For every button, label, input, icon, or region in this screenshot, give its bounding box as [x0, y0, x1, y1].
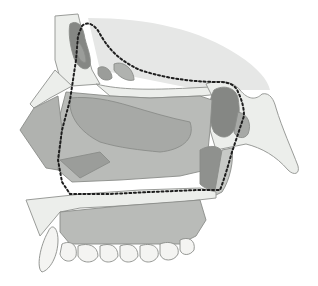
nose-soft-tissue [20, 96, 62, 170]
pharyngeal-region [200, 146, 233, 196]
nasal-anatomy-illustration [0, 0, 318, 286]
nasal-cavity [56, 92, 212, 182]
